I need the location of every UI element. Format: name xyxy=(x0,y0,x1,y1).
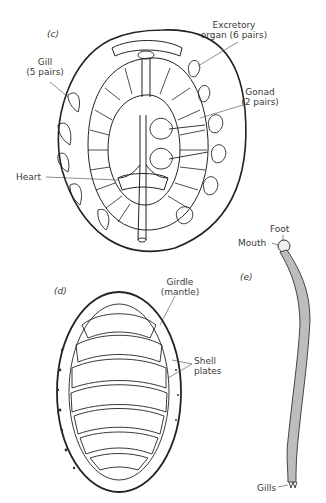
panel-label-e: (e) xyxy=(240,272,253,282)
foot-head xyxy=(278,240,290,252)
leader-lines-d xyxy=(160,296,192,378)
leader-lines-c xyxy=(46,42,243,180)
shell-plates xyxy=(71,314,167,470)
label-gills: Gills xyxy=(257,483,276,493)
segment-dividers xyxy=(88,68,207,222)
leader-lines-e xyxy=(272,235,288,487)
inner-ring-outer xyxy=(88,58,208,230)
heart-shape xyxy=(118,174,168,191)
label-shell-plates: Shell plates xyxy=(194,356,221,376)
label-mouth: Mouth xyxy=(238,238,266,248)
excretory-organs xyxy=(176,60,225,223)
label-gonad-line1: Gonad xyxy=(240,87,280,97)
label-girdle: Girdle (mantle) xyxy=(160,277,200,297)
label-shell-line1: Shell xyxy=(194,356,221,366)
outer-body-outline xyxy=(59,30,246,251)
panel-e-drawing xyxy=(272,235,310,488)
label-girdle-line1: Girdle xyxy=(160,277,200,287)
label-gill-line1: Gill xyxy=(25,57,65,67)
inner-ring-inner xyxy=(108,95,180,205)
label-excretory-organ: Excretory organ (6 pairs) xyxy=(200,20,268,40)
panel-label-d: (d) xyxy=(54,286,67,296)
gills-tip xyxy=(289,482,297,488)
label-shell-line2: plates xyxy=(194,366,221,376)
girdle-outline xyxy=(57,292,181,492)
head-shield xyxy=(112,41,182,57)
label-excretory-line1: Excretory xyxy=(200,20,268,30)
label-foot: Foot xyxy=(270,224,289,234)
dorsal-vessel xyxy=(118,58,168,240)
label-gill-line2: (5 pairs) xyxy=(25,67,65,77)
tusk-shell-body xyxy=(280,250,310,482)
label-gonad-line2: (2 pairs) xyxy=(240,97,280,107)
label-gill: Gill (5 pairs) xyxy=(25,57,65,77)
panel-d-drawing xyxy=(57,292,192,492)
label-excretory-line2: organ (6 pairs) xyxy=(200,30,268,40)
label-gonad: Gonad (2 pairs) xyxy=(240,87,280,107)
label-heart: Heart xyxy=(16,172,41,182)
label-girdle-line2: (mantle) xyxy=(160,287,200,297)
panel-c-drawing xyxy=(46,30,246,251)
panel-label-c: (c) xyxy=(47,29,59,39)
